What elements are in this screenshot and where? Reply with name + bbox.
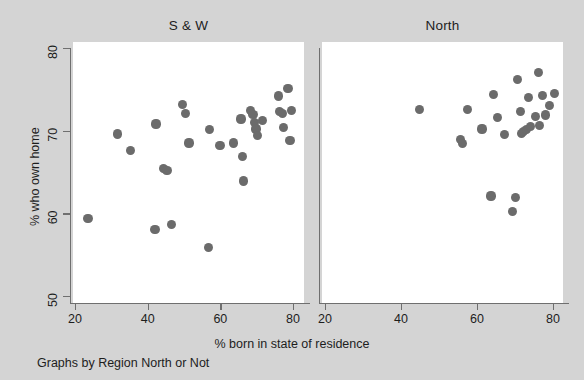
scatter-point	[279, 123, 288, 132]
axis-line	[319, 303, 569, 304]
scatter-points-left	[73, 42, 304, 303]
scatter-point	[126, 146, 135, 155]
scatter-point	[415, 105, 424, 114]
scatter-points-right	[322, 42, 563, 303]
scatter-point	[500, 130, 509, 139]
scatter-point	[253, 131, 262, 140]
scatter-point	[541, 110, 550, 119]
scatter-point	[538, 91, 547, 100]
scatter-point	[258, 116, 267, 125]
axis-line	[63, 48, 70, 49]
scatter-point	[516, 107, 525, 116]
scatter-point	[283, 84, 292, 93]
scatter-point	[215, 141, 224, 150]
scatter-point	[205, 125, 214, 134]
y-axis-title: % who own home	[28, 127, 42, 226]
axis-line	[293, 303, 294, 310]
scatter-point	[167, 220, 176, 229]
axis-line	[63, 131, 70, 132]
scatter-point	[550, 89, 559, 98]
scatter-point	[184, 138, 193, 147]
scatter-point	[229, 138, 238, 147]
scatter-point	[287, 106, 296, 115]
scatter-point	[489, 90, 498, 99]
axis-line	[553, 303, 554, 310]
scatter-point	[113, 129, 122, 138]
scatter-point	[150, 225, 159, 234]
axis-line	[401, 303, 402, 310]
x-axis-title: % born in state of residence	[0, 337, 584, 351]
scatter-point	[526, 122, 535, 131]
tick-label: 60	[200, 312, 240, 326]
scatter-point	[238, 152, 247, 161]
scatter-point	[508, 207, 517, 216]
scatter-point	[513, 75, 522, 84]
scatter-point	[531, 112, 540, 121]
tick-label: 40	[381, 312, 421, 326]
tick-label: 60	[457, 312, 497, 326]
axis-line	[220, 303, 221, 310]
axis-line	[148, 303, 149, 310]
scatter-point	[83, 214, 92, 223]
axis-line	[319, 48, 320, 304]
scatter-point	[534, 68, 543, 77]
scatter-point	[511, 193, 520, 202]
panel-title-left: S & W	[73, 18, 304, 33]
scatter-point	[463, 105, 472, 114]
scatter-point	[545, 101, 554, 110]
scatter-point	[477, 124, 486, 133]
scatter-point	[151, 119, 160, 128]
axis-line	[75, 303, 76, 310]
axis-line	[325, 303, 326, 310]
scatter-point	[178, 100, 187, 109]
figure-caption: Graphs by Region North or Not	[37, 356, 209, 370]
panel-title-right: North	[322, 18, 563, 33]
scatter-figure: S & W North 5060708020406080 20406080 % …	[0, 0, 584, 380]
axis-line	[70, 48, 71, 304]
tick-label: 20	[305, 312, 345, 326]
scatter-point	[458, 139, 467, 148]
tick-label: 40	[128, 312, 168, 326]
scatter-point	[486, 191, 495, 200]
scatter-point	[535, 121, 544, 130]
scatter-point	[285, 136, 294, 145]
tick-label: 80	[533, 312, 573, 326]
scatter-point	[204, 243, 213, 252]
tick-label: 20	[55, 312, 95, 326]
axis-line	[63, 213, 70, 214]
scatter-point	[278, 109, 287, 118]
scatter-point	[239, 176, 248, 185]
scatter-point	[162, 166, 171, 175]
scatter-point	[236, 114, 245, 123]
scatter-point	[493, 113, 502, 122]
scatter-point	[274, 91, 283, 100]
scatter-point	[181, 109, 190, 118]
scatter-point	[524, 93, 533, 102]
axis-line	[70, 303, 310, 304]
axis-line	[63, 296, 70, 297]
axis-line	[477, 303, 478, 310]
